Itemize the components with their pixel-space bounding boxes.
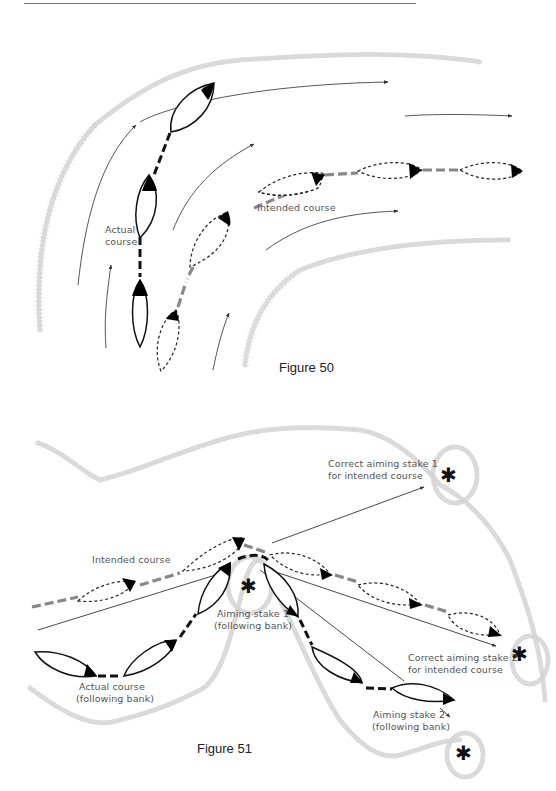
boat-actual-2 <box>136 175 157 238</box>
label-aiming-stake-2-2: (following bank) <box>372 721 450 732</box>
label-correct-aiming-stake-1-2: for intended course <box>328 470 423 481</box>
actual-course-path <box>154 133 170 175</box>
figure-50: Actual course Intended course Figure 50 <box>0 0 556 400</box>
boat-actual-3 <box>132 280 148 347</box>
boat-actual-1 <box>35 652 97 677</box>
boat-actual-6 <box>392 684 455 705</box>
boat-actual-2 <box>124 640 177 676</box>
label-correct-aiming-stake-1: Correct aiming stake 1 <box>328 458 438 469</box>
label-actual-course-2: (following bank) <box>76 693 154 704</box>
boat-actual-1 <box>171 83 214 132</box>
label-intended-course: Intended course <box>257 202 336 213</box>
actual-course-path <box>180 614 196 637</box>
intended-course-path <box>325 173 358 175</box>
label-actual-course: Actual <box>105 224 135 235</box>
boat-intended-5 <box>460 163 523 180</box>
label-aiming-stake-2: Aiming stake 2 <box>373 709 445 720</box>
label-aiming-stake-1: Aiming stake 1 <box>217 608 289 619</box>
aiming-stake-2-marker: ✱ <box>455 741 472 765</box>
boat-intended-2 <box>190 211 230 267</box>
figure-51: ✱ ✱ ✱ ✱ Intended course Actual course (f… <box>0 400 556 791</box>
label-aiming-stake-1-2: (following bank) <box>214 620 292 631</box>
correct-aiming-stake-1-marker: ✱ <box>440 463 457 487</box>
intended-course-path <box>32 597 78 607</box>
intended-course-path <box>140 573 180 585</box>
boat-intended-3 <box>259 172 325 195</box>
figure-51-caption: Figure 51 <box>197 741 252 756</box>
label-actual-course: Actual course <box>79 681 145 692</box>
intended-course-path <box>425 605 448 612</box>
boat-intended-4 <box>358 163 422 179</box>
intended-course-path <box>244 545 268 553</box>
label-intended-course: Intended course <box>92 554 171 565</box>
label-correct-aiming-stake-2: Correct aiming stake 2 <box>408 652 518 663</box>
intended-course-path <box>178 267 193 307</box>
boat-intended-5 <box>448 613 502 637</box>
figure-50-caption: Figure 50 <box>279 360 334 375</box>
label-actual-course-2: course <box>105 236 137 247</box>
boat-intended-1 <box>157 310 179 371</box>
actual-course-path <box>366 688 392 689</box>
boat-actual-3 <box>198 562 231 614</box>
label-correct-aiming-stake-2-2: for intended course <box>408 664 503 675</box>
boat-actual-5 <box>312 647 363 683</box>
boat-intended-4 <box>358 583 423 609</box>
aiming-stake-1-marker: ✱ <box>240 574 257 598</box>
boat-intended-1 <box>78 578 136 601</box>
intended-course-path <box>335 575 358 582</box>
